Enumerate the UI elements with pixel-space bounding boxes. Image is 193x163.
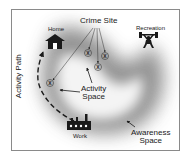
recreation-label: Recreation bbox=[136, 25, 165, 31]
crime-site-label: Crime Site bbox=[80, 17, 117, 25]
weightlifter-icon bbox=[139, 32, 158, 48]
awareness-space-label-line2: Space bbox=[131, 137, 170, 145]
awareness-space-label: Awareness Space bbox=[131, 129, 170, 146]
home-label: Home bbox=[48, 26, 64, 32]
activity-path-label: Activity Path bbox=[15, 54, 23, 98]
work-label: Work bbox=[73, 133, 87, 139]
activity-space-label: Activity Space bbox=[81, 85, 106, 102]
activity-space-label-line2: Space bbox=[81, 93, 106, 101]
